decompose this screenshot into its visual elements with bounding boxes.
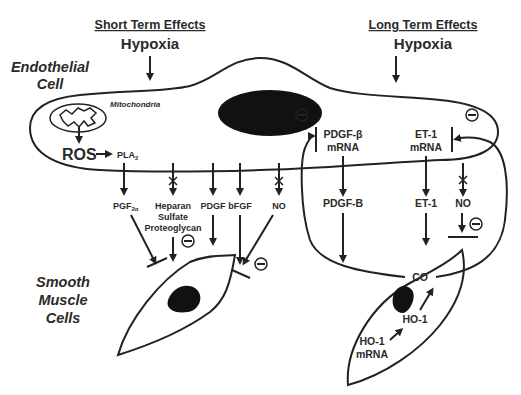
hypoxia-left-label: Hypoxia <box>121 35 180 52</box>
endothelial-nucleus <box>218 90 322 136</box>
pgf-receptor-bar <box>147 258 167 267</box>
pdgf-b-label: PDGF-B <box>323 197 364 209</box>
heparan-label-line3: Proteoglycan <box>144 223 201 233</box>
pla2-label: PLA2 <box>117 150 139 161</box>
ho1-to-co-arrow-icon <box>420 290 432 310</box>
smooth-muscle-label-line2: Muscle <box>38 292 87 308</box>
no-to-smc-arrow-icon <box>244 215 273 263</box>
hypoxia-pathway-diagram: Short Term Effects Long Term Effects Hyp… <box>0 0 521 395</box>
ho1-mrna-to-ho1-arrow-icon <box>390 330 401 340</box>
et1-mrna-line2: mRNA <box>410 141 443 153</box>
ho1-mrna-line1: HO-1 <box>359 335 384 347</box>
endothelial-label-line1: Endothelial <box>11 59 90 75</box>
et1-label: ET-1 <box>415 197 437 209</box>
smooth-muscle-nucleus-right <box>393 286 414 313</box>
pdgf-beta-mrna-line2: mRNA <box>327 141 360 153</box>
pdgf-label: PDGF <box>200 201 226 211</box>
co-label: CO <box>412 271 428 283</box>
et1-mrna-line1: ET-1 <box>415 128 437 140</box>
heparan-label-line2: Sulfate <box>158 212 188 222</box>
no-short-receptor-bar <box>232 270 250 278</box>
pdgf-beta-mrna-line1: PDGF-β <box>323 128 363 140</box>
pgf2a-label: PGF2α <box>113 201 139 212</box>
ho1-mrna-line2: mRNA <box>356 348 389 360</box>
mitochondria-label: Mitochondria <box>110 100 161 109</box>
short-term-header: Short Term Effects <box>95 18 206 32</box>
co-to-et1-feedback <box>436 138 507 277</box>
smooth-muscle-nucleus-left <box>168 286 201 313</box>
smooth-muscle-label-line3: Cells <box>46 310 81 326</box>
heparan-label-line1: Heparan <box>155 201 191 211</box>
ros-label: ROS <box>62 146 97 163</box>
smooth-muscle-label-line1: Smooth <box>36 274 90 290</box>
bfgf-label: bFGF <box>228 201 252 211</box>
ho1-label: HO-1 <box>402 313 427 325</box>
long-term-header: Long Term Effects <box>369 18 478 32</box>
no-long-label: NO <box>455 197 471 209</box>
no-short-label: NO <box>272 201 286 211</box>
endothelial-label-line2: Cell <box>37 76 65 92</box>
mitochondria-cristae <box>60 108 96 127</box>
hypoxia-right-label: Hypoxia <box>394 35 453 52</box>
